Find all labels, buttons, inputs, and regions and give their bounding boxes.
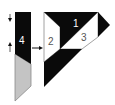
piecing-diagram: 4 1 2 3 <box>0 0 115 105</box>
piece-label-4: 4 <box>19 35 25 46</box>
strip-unit: 4 <box>15 12 31 101</box>
piece-label-1: 1 <box>73 18 79 29</box>
down-arrow-icon <box>8 14 12 22</box>
piece-label-2: 2 <box>48 36 54 47</box>
up-arrow-icon <box>8 42 12 52</box>
block-piece-tip <box>98 12 110 37</box>
piece-label-3: 3 <box>81 32 87 43</box>
right-arrow-icon <box>32 46 43 50</box>
block-unit: 1 2 3 <box>44 12 110 87</box>
